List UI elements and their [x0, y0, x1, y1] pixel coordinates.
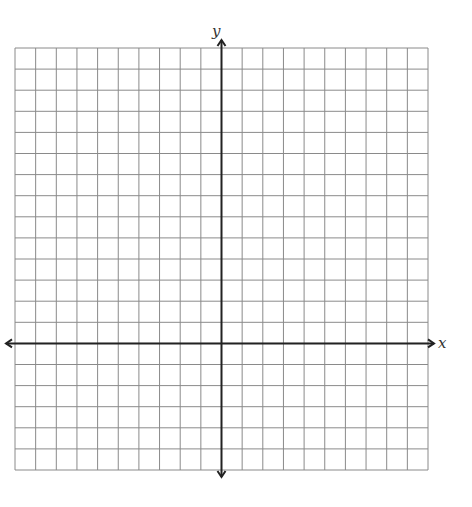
- x-axis: [6, 339, 434, 347]
- coordinate-grid: [0, 0, 472, 507]
- x-axis-label: x: [438, 334, 446, 352]
- y-axis-label: y: [212, 22, 220, 40]
